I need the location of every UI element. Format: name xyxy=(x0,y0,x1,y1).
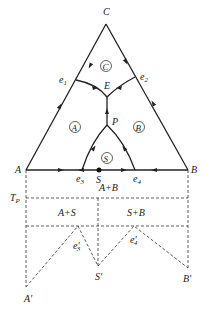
region-s: S xyxy=(102,153,113,164)
svg-text:A: A xyxy=(71,123,78,133)
a-plus-s-label: A+S xyxy=(57,207,76,218)
a-prime-label: A′ xyxy=(23,293,33,304)
region-b: B xyxy=(134,122,145,133)
svg-text:S: S xyxy=(104,154,109,164)
point-E-label: E xyxy=(103,80,110,91)
liquidus-curve xyxy=(26,226,188,287)
arrow-icon xyxy=(151,168,157,172)
region-c: C xyxy=(101,61,112,72)
curve-e1-E xyxy=(76,80,107,97)
compound-s-dot xyxy=(97,168,102,173)
arrow-icon xyxy=(78,168,84,172)
svg-text:C: C xyxy=(103,62,110,72)
tp-label: TP xyxy=(10,192,21,205)
vertex-b-label: B xyxy=(191,164,197,175)
point-e1-label: e1 xyxy=(59,74,67,87)
point-e2-label: e2 xyxy=(140,71,148,84)
arrow-icon xyxy=(58,168,64,172)
vertex-c-label: C xyxy=(103,6,110,17)
point-e4-label: e4 xyxy=(133,173,141,186)
point-P-label: P xyxy=(111,116,118,127)
svg-text:B: B xyxy=(136,123,142,133)
edge-cb xyxy=(106,24,188,170)
e3-prime-label: e′3 xyxy=(73,240,81,253)
s-prime-label: S′ xyxy=(95,271,103,282)
arrow-icon xyxy=(105,108,109,114)
arrow-icon xyxy=(121,168,127,172)
vertex-a-label: A xyxy=(14,164,22,175)
phase-diagram: C A B e1 e2 E P e3 S e4 C A B S A+B TP A… xyxy=(0,0,207,310)
b-prime-label: B′ xyxy=(183,273,192,284)
e4-prime-label: e′4 xyxy=(130,234,138,247)
liquid-region-label: A+B xyxy=(98,182,118,193)
point-e3-label: e3 xyxy=(76,173,84,186)
s-plus-b-label: S+B xyxy=(127,207,145,218)
region-a: A xyxy=(70,122,81,133)
curve-e4-P xyxy=(107,125,135,170)
arrow-icon xyxy=(87,62,93,69)
